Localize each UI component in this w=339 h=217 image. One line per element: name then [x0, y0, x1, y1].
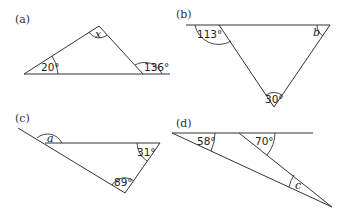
diagram-b-angle-right: b — [313, 26, 320, 39]
diagram-d-long-side — [172, 133, 332, 207]
diagram-c-angle-bottom: 89° — [114, 176, 133, 188]
diagram-d: (d) 58° 70° c — [172, 117, 332, 207]
diagram-b: (b) 113° b 30° — [176, 8, 330, 107]
diagram-c-label: (c) — [15, 112, 30, 125]
diagram-c-left-extended-side — [18, 128, 125, 193]
diagram-c-angle-exterior: a — [47, 132, 54, 145]
diagram-a-angle-left: 20° — [41, 61, 60, 73]
diagram-d-angle-left: 58° — [197, 135, 216, 147]
diagram-d-label: (d) — [176, 117, 192, 130]
diagram-a-left-side — [24, 26, 99, 74]
diagram-a-angle-exterior: 136° — [144, 61, 169, 73]
diagram-d-angle-bottom: c — [295, 179, 301, 192]
diagram-d-angle-arc-bottom — [289, 175, 294, 187]
diagram-a-label: (a) — [15, 13, 30, 26]
triangle-angle-diagrams: (a) 20° x 136° (b) 113° b 30° (c) a 31° … — [0, 0, 339, 217]
diagram-a-right-side — [99, 26, 143, 74]
diagram-b-label: (b) — [176, 8, 192, 21]
diagram-b-angle-exterior: 113° — [197, 28, 222, 40]
diagram-c-angle-right: 31° — [137, 146, 156, 158]
diagram-a-angle-apex: x — [95, 28, 102, 41]
diagram-b-angle-bottom: 30° — [265, 93, 284, 105]
diagram-d-angle-exterior: 70° — [255, 135, 274, 147]
diagram-c: (c) a 31° 89° — [15, 112, 160, 193]
diagram-a: (a) 20° x 136° — [15, 13, 170, 74]
